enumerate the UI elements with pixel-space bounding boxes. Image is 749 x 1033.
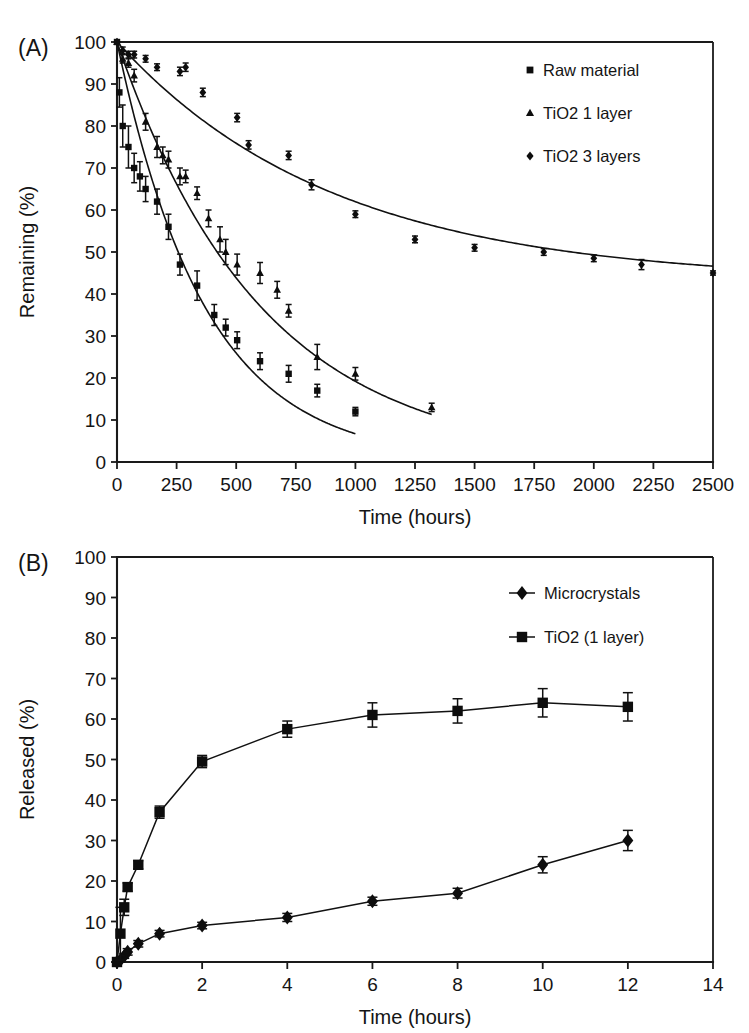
panel-a-svg: 0102030405060708090100025050075010001250… — [0, 0, 749, 530]
legend-marker-triangle — [526, 109, 534, 116]
y-tick-label: 0 — [95, 452, 106, 473]
legend: MicrocrystalsTiO2 (1 layer) — [509, 584, 644, 646]
y-tick-label: 30 — [85, 831, 106, 852]
data-point-triangle — [182, 172, 190, 179]
y-tick-label: 90 — [85, 74, 106, 95]
data-point-triangle — [130, 72, 138, 79]
series-line-1 — [117, 703, 628, 962]
legend-marker-square — [527, 67, 534, 74]
data-point-diamond — [199, 88, 206, 97]
x-tick-label: 500 — [220, 474, 252, 495]
data-point-square — [137, 173, 143, 179]
data-point-triangle — [216, 235, 224, 242]
x-tick-label: 0 — [112, 474, 123, 495]
panel-letter: (B) — [18, 550, 49, 576]
data-point-diamond — [245, 141, 252, 150]
data-point-triangle — [233, 261, 241, 268]
x-tick-label: 1000 — [334, 474, 376, 495]
x-tick-label: 1250 — [394, 474, 436, 495]
data-point-square — [125, 144, 131, 150]
data-point-square — [452, 706, 462, 716]
data-point-diamond — [622, 833, 633, 847]
panel-b: 010203040506070809010002468101214Time (h… — [0, 530, 749, 1033]
data-point-square — [623, 702, 633, 712]
x-tick-label: 14 — [702, 974, 724, 995]
x-tick-label: 2250 — [632, 474, 674, 495]
data-point-triangle — [352, 370, 360, 377]
figure-container: 0102030405060708090100025050075010001250… — [0, 0, 749, 1033]
data-point-triangle — [205, 214, 213, 221]
y-tick-label: 20 — [85, 871, 106, 892]
data-point-triangle — [428, 403, 436, 410]
x-tick-label: 10 — [532, 974, 553, 995]
data-point-triangle — [125, 59, 133, 66]
data-point-square — [285, 371, 291, 377]
data-point-diamond — [154, 927, 165, 941]
x-tick-label: 2000 — [573, 474, 615, 495]
y-tick-label: 30 — [85, 326, 106, 347]
panel-b-svg: 010203040506070809010002468101214Time (h… — [0, 530, 749, 1033]
y-tick-label: 50 — [85, 750, 106, 771]
data-point-square — [142, 186, 148, 192]
data-point-square — [314, 387, 320, 393]
data-point-square — [115, 928, 125, 938]
data-point-triangle — [142, 118, 150, 125]
x-tick-label: 250 — [161, 474, 193, 495]
x-axis-title: Time (hours) — [359, 506, 472, 528]
data-point-triangle — [273, 286, 281, 293]
x-tick-label: 4 — [282, 974, 293, 995]
data-point-square — [367, 710, 377, 720]
legend-marker-diamond — [517, 586, 528, 600]
y-tick-label: 90 — [85, 588, 106, 609]
y-tick-label: 50 — [85, 242, 106, 263]
x-tick-label: 6 — [367, 974, 378, 995]
legend-label: TiO2 (1 layer) — [544, 628, 644, 646]
y-tick-label: 40 — [85, 284, 106, 305]
data-point-square — [120, 123, 126, 129]
x-tick-label: 12 — [617, 974, 638, 995]
legend-marker-diamond — [526, 151, 533, 160]
data-point-diamond — [182, 63, 189, 72]
x-axis-title: Time (hours) — [359, 1006, 472, 1028]
fit-curve-0 — [117, 42, 355, 434]
y-tick-label: 40 — [85, 790, 106, 811]
y-tick-label: 60 — [85, 200, 106, 221]
x-tick-label: 2500 — [692, 474, 734, 495]
legend-label: Microcrystals — [544, 584, 640, 602]
data-point-square — [131, 165, 137, 171]
y-tick-label: 100 — [74, 32, 106, 53]
data-point-square — [116, 89, 122, 95]
fit-curve-1 — [117, 42, 432, 414]
y-tick-label: 0 — [95, 952, 106, 973]
data-point-triangle — [165, 156, 173, 163]
data-point-square — [133, 860, 143, 870]
data-point-diamond — [638, 260, 645, 269]
data-point-diamond — [197, 919, 208, 933]
y-tick-label: 60 — [85, 709, 106, 730]
data-point-triangle — [159, 151, 167, 158]
y-tick-label: 10 — [85, 912, 106, 933]
data-point-diamond — [282, 910, 293, 924]
x-tick-label: 8 — [452, 974, 463, 995]
data-point-diamond — [234, 113, 241, 122]
y-axis-title: Remaining (%) — [16, 186, 38, 318]
data-point-square — [223, 324, 229, 330]
data-point-square — [257, 358, 263, 364]
data-point-square — [119, 902, 129, 912]
x-tick-label: 1500 — [453, 474, 495, 495]
data-point-diamond — [285, 151, 292, 160]
data-point-diamond — [537, 858, 548, 872]
data-point-square — [122, 882, 132, 892]
panel-letter: (A) — [18, 35, 49, 61]
panel-a: 0102030405060708090100025050075010001250… — [0, 0, 749, 530]
data-point-square — [282, 724, 292, 734]
legend-marker-square — [517, 632, 527, 642]
data-point-triangle — [193, 189, 201, 196]
data-point-square — [211, 312, 217, 318]
data-point-square — [352, 408, 358, 414]
data-point-square — [154, 198, 160, 204]
x-tick-label: 750 — [280, 474, 312, 495]
data-point-triangle — [222, 248, 230, 255]
y-tick-label: 10 — [85, 410, 106, 431]
data-point-square — [197, 756, 207, 766]
